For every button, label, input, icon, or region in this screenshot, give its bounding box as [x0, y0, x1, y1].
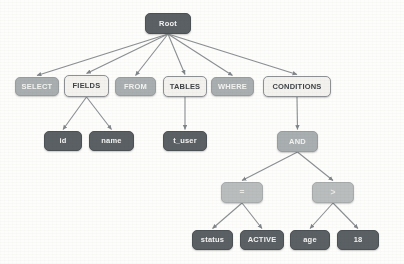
tree-node-label: 18 [354, 236, 363, 244]
tree-edge-fields-to-name [87, 97, 112, 130]
tree-node-id[interactable]: id [44, 131, 82, 151]
tree-node-label: FROM [124, 82, 147, 90]
tree-node-label: WHERE [218, 82, 247, 90]
tree-node-label: age [303, 236, 317, 244]
tree-edge-root-to-where [168, 34, 233, 76]
tree-node-age[interactable]: age [290, 230, 330, 250]
tree-edge-conditions-to-and [297, 97, 298, 130]
tree-node-tables[interactable]: TABLES [163, 76, 207, 97]
tree-node-label: > [330, 188, 335, 197]
tree-node-label: CONDITIONS [272, 82, 321, 90]
tree-node-name[interactable]: name [89, 131, 134, 151]
tree-edge-root-to-select [37, 34, 168, 76]
tree-edge-gt-to-eighteen [333, 203, 358, 229]
tree-node-select[interactable]: SELECT [15, 77, 59, 96]
tree-node-from[interactable]: FROM [115, 77, 156, 96]
tree-node-label: AND [289, 137, 306, 145]
tree-node-label: Root [159, 19, 177, 27]
tree-node-label: = [239, 188, 244, 197]
tree-edge-root-to-fields [87, 34, 169, 74]
tree-node-eighteen[interactable]: 18 [337, 230, 379, 250]
diagram-canvas: RootSELECTFIELDSFROMTABLESWHERECONDITION… [0, 0, 404, 264]
tree-node-where[interactable]: WHERE [211, 77, 254, 96]
tree-node-active[interactable]: ACTIVE [240, 230, 284, 250]
tree-edge-root-to-from [136, 34, 169, 76]
tree-edge-and-to-gt [298, 152, 334, 181]
tree-node-label: id [59, 137, 66, 145]
tree-node-label: ACTIVE [248, 236, 277, 244]
tree-edge-gt-to-age [310, 203, 333, 229]
tree-node-root[interactable]: Root [145, 13, 191, 34]
tree-edge-and-to-eq [242, 152, 298, 181]
tree-node-fields[interactable]: FIELDS [64, 75, 109, 97]
tree-edge-eq-to-status [213, 203, 243, 229]
tree-node-label: t_user [173, 137, 197, 145]
tree-node-and[interactable]: AND [277, 131, 318, 152]
tree-node-label: name [101, 137, 121, 145]
tree-edge-eq-to-active [242, 203, 262, 229]
tree-node-t_user[interactable]: t_user [163, 131, 207, 151]
tree-node-conditions[interactable]: CONDITIONS [263, 76, 331, 97]
tree-node-label: SELECT [22, 82, 53, 90]
tree-node-label: FIELDS [73, 82, 101, 90]
tree-node-status[interactable]: status [192, 230, 233, 250]
tree-edge-fields-to-id [63, 97, 87, 130]
tree-node-label: TABLES [170, 82, 201, 90]
tree-node-eq[interactable]: = [221, 182, 263, 203]
tree-node-label: status [201, 236, 224, 244]
tree-node-gt[interactable]: > [312, 182, 354, 203]
tree-edge-root-to-conditions [168, 34, 297, 75]
